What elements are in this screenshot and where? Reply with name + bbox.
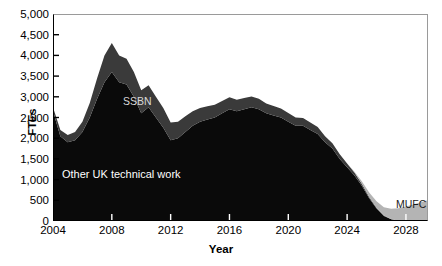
y-tick-4500: 4,500 [20, 29, 49, 41]
y-tick-1500: 1,500 [20, 153, 49, 165]
x-tick-2020: 2020 [275, 224, 301, 236]
x-tick-2028: 2028 [393, 224, 419, 236]
y-tick-2000: 2,000 [20, 132, 49, 144]
plot-area [53, 14, 428, 221]
x-tick-2008: 2008 [99, 224, 125, 236]
y-tick-3500: 3,500 [20, 70, 49, 82]
y-tick-500: 500 [30, 194, 49, 206]
series-label-other-uk-technical-work: Other UK technical work [62, 168, 181, 180]
x-tick-2024: 2024 [334, 224, 360, 236]
y-tick-3000: 3,000 [20, 91, 49, 103]
stacked-area-svg [53, 14, 428, 221]
x-tick-2004: 2004 [40, 224, 66, 236]
chart-figure: FTEs 05001,0001,5002,0002,5003,0003,5004… [0, 0, 442, 266]
x-tick-2016: 2016 [217, 224, 243, 236]
series-label-ssbn: SSBN [123, 95, 152, 107]
x-axis-title: Year [0, 243, 442, 255]
y-tick-5000: 5,000 [20, 8, 49, 20]
y-tick-4000: 4,000 [20, 49, 49, 61]
y-tick-1000: 1,000 [20, 174, 49, 186]
y-tick-2500: 2,500 [20, 112, 49, 124]
x-tick-2012: 2012 [158, 224, 184, 236]
series-label-mufc: MUFC [396, 198, 426, 210]
